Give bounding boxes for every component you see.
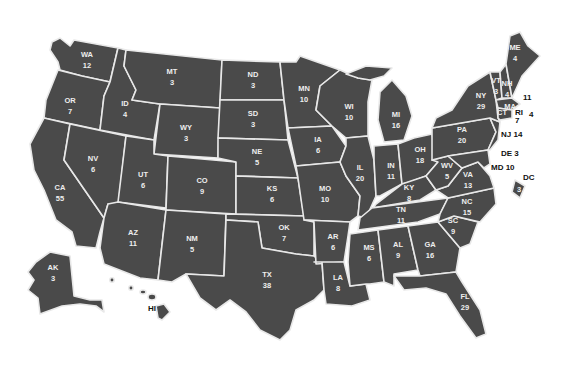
state-abbr: TN xyxy=(396,204,406,215)
state-label-ne: NE5 xyxy=(252,146,262,168)
electoral-votes: 11 xyxy=(387,171,395,182)
state-label-mi: MI16 xyxy=(392,109,400,131)
dc-votes: 3 xyxy=(517,184,521,195)
state-label-ok: OK7 xyxy=(278,222,289,244)
state-abbr: OH xyxy=(414,144,425,155)
state-abbr: TX xyxy=(262,269,272,280)
electoral-votes: 6 xyxy=(328,242,339,253)
state-label-ia: IA6 xyxy=(314,134,322,156)
state-abbr: VT xyxy=(491,75,501,86)
external-label-ma: 11 xyxy=(523,93,531,102)
state-label-vt: VT3 xyxy=(491,75,501,97)
state-label-ms: MS6 xyxy=(363,242,374,264)
state-label-mo: MO10 xyxy=(319,183,331,205)
state-label-tn: TN11 xyxy=(396,204,406,226)
electoral-votes: 3 xyxy=(491,86,501,97)
state-label-nd: ND3 xyxy=(248,69,259,91)
state-fl[interactable] xyxy=(394,272,486,338)
state-label-ar: AR6 xyxy=(328,231,339,253)
state-label-oh: OH18 xyxy=(414,144,425,166)
external-label-hi: HI xyxy=(148,304,156,313)
state-label-mt: MT3 xyxy=(167,66,178,88)
electoral-votes: 7 xyxy=(278,233,289,244)
external-label-ri: 4 xyxy=(529,110,533,119)
state-abbr: IA xyxy=(314,134,322,145)
electoral-votes: 5 xyxy=(186,244,198,255)
electoral-votes: 11 xyxy=(128,238,138,249)
external-label-dc: DC xyxy=(523,173,535,182)
electoral-votes: 7 xyxy=(64,106,75,117)
state-abbr: NE xyxy=(252,146,262,157)
state-abbr: UT xyxy=(138,169,148,180)
state-abbr: NM xyxy=(186,233,198,244)
state-abbr: ME xyxy=(509,42,520,53)
electoral-votes: 4 xyxy=(502,89,513,100)
state-abbr: NV xyxy=(88,153,98,164)
state-label-sc: SC9 xyxy=(448,215,458,237)
state-label-me: ME4 xyxy=(509,42,520,64)
state-label-fl: FL29 xyxy=(460,291,469,313)
state-abbr: SD xyxy=(248,108,258,119)
external-label-ct: 7 xyxy=(515,116,519,125)
electoral-votes: 10 xyxy=(344,112,353,123)
state-label-la: LA8 xyxy=(333,272,343,294)
electoral-votes: 4 xyxy=(509,53,520,64)
state-abbr: OR xyxy=(64,95,75,106)
state-abbr: NY xyxy=(476,90,486,101)
state-abbr: LA xyxy=(333,272,343,283)
state-abbr: SC xyxy=(448,215,458,226)
state-abbr: VA xyxy=(463,169,473,180)
state-abbr: KS xyxy=(267,183,277,194)
electoral-votes: 3 xyxy=(248,119,258,130)
state-abbr: OK xyxy=(278,222,289,233)
state-ak[interactable] xyxy=(28,252,104,314)
electoral-votes: 15 xyxy=(462,207,473,218)
state-abbr: MI xyxy=(392,109,400,120)
electoral-votes: 6 xyxy=(267,194,277,205)
state-label-wa: WA12 xyxy=(81,49,93,71)
electoral-votes: 3 xyxy=(48,273,59,284)
state-label-pa: PA20 xyxy=(457,124,467,146)
state-abbr: FL xyxy=(460,291,469,302)
state-label-wi: WI10 xyxy=(344,101,353,123)
state-label-ga: GA16 xyxy=(424,239,435,261)
state-abbr: WA xyxy=(81,49,93,60)
state-abbr: NH xyxy=(502,78,513,89)
state-abbr: MS xyxy=(363,242,374,253)
state-label-nh: NH4 xyxy=(502,78,513,100)
state-abbr: GA xyxy=(424,239,435,250)
state-label-or: OR7 xyxy=(64,95,75,117)
state-label-ks: KS6 xyxy=(267,183,277,205)
electoral-votes: 20 xyxy=(356,173,364,184)
state-abbr: IN xyxy=(387,160,395,171)
state-label-va: VA13 xyxy=(463,169,473,191)
electoral-votes: 5 xyxy=(252,157,262,168)
state-label-ak: AK3 xyxy=(48,262,59,284)
electoral-votes: 20 xyxy=(457,135,467,146)
state-abbr: AL xyxy=(393,239,403,250)
electoral-votes: 55 xyxy=(55,193,66,204)
state-label-il: IL20 xyxy=(356,162,364,184)
state-label-nc: NC15 xyxy=(462,196,473,218)
state-abbr: ND xyxy=(248,69,259,80)
electoral-votes: 6 xyxy=(88,164,98,175)
state-abbr: WI xyxy=(344,101,353,112)
electoral-votes: 6 xyxy=(314,145,322,156)
state-hi[interactable] xyxy=(110,278,170,320)
electoral-votes: 16 xyxy=(424,250,435,261)
state-label-ut: UT6 xyxy=(138,169,148,191)
state-label-ky: KY8 xyxy=(404,182,414,204)
electoral-votes: 8 xyxy=(404,193,414,204)
state-abbr: AZ xyxy=(128,227,138,238)
state-label-sd: SD3 xyxy=(248,108,258,130)
state-abbr: AK xyxy=(48,262,59,273)
electoral-votes: 29 xyxy=(476,101,486,112)
state-label-co: CO9 xyxy=(196,175,207,197)
electoral-votes: 9 xyxy=(393,250,403,261)
state-abbr: MT xyxy=(167,66,178,77)
state-label-nv: NV6 xyxy=(88,153,98,175)
state-abbr: MO xyxy=(319,183,331,194)
state-label-id: ID4 xyxy=(121,98,129,120)
state-abbr: CA xyxy=(55,182,66,193)
electoral-votes: 29 xyxy=(460,302,469,313)
